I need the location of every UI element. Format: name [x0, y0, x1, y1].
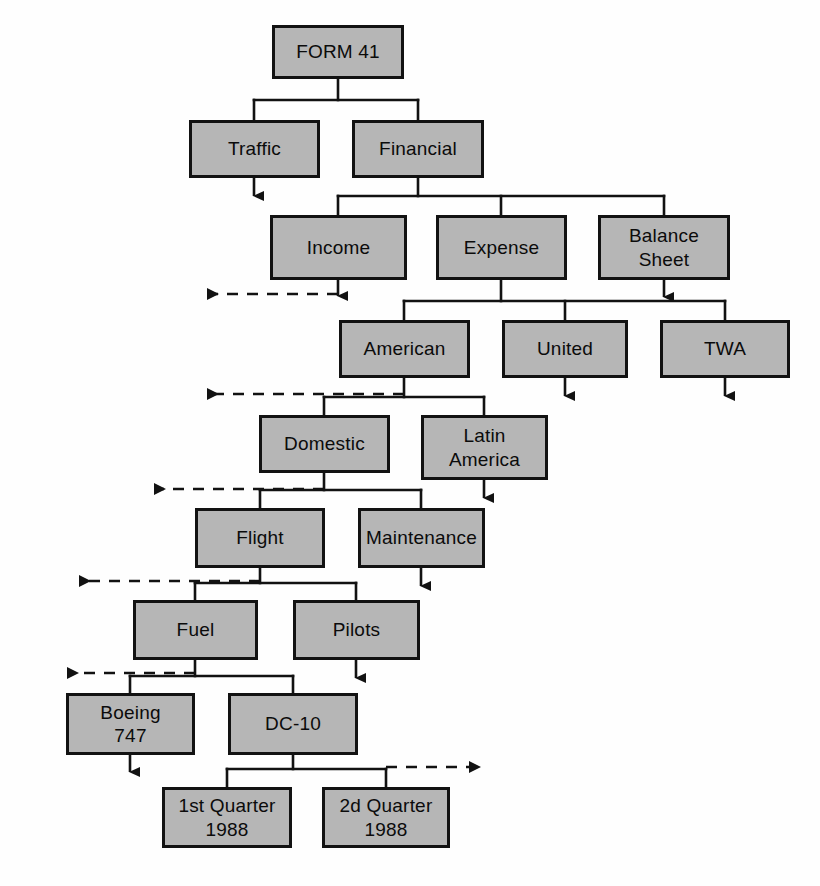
node-flight[interactable]: Flight [195, 508, 325, 568]
node-form-41[interactable]: FORM 41 [272, 25, 404, 79]
node-twa[interactable]: TWA [660, 320, 790, 378]
node-maintenance[interactable]: Maintenance [358, 508, 485, 568]
node-dc-10[interactable]: DC-10 [228, 693, 358, 755]
node-boeing-747[interactable]: Boeing 747 [66, 693, 195, 755]
node-balance-sheet[interactable]: Balance Sheet [598, 215, 730, 280]
node-pilots[interactable]: Pilots [293, 600, 420, 660]
node-2d-quarter-1988[interactable]: 2d Quarter 1988 [322, 787, 450, 848]
node-fuel[interactable]: Fuel [133, 600, 258, 660]
node-latin-america[interactable]: Latin America [421, 415, 548, 480]
form41-hierarchy-diagram: FORM 41 Traffic Financial Income Expense… [0, 0, 820, 886]
node-1st-quarter-1988[interactable]: 1st Quarter 1988 [162, 787, 292, 848]
node-domestic[interactable]: Domestic [259, 415, 390, 473]
node-expense[interactable]: Expense [436, 215, 567, 280]
node-income[interactable]: Income [270, 215, 407, 280]
node-united[interactable]: United [502, 320, 628, 378]
node-financial[interactable]: Financial [352, 120, 484, 178]
node-traffic[interactable]: Traffic [189, 120, 320, 178]
node-american[interactable]: American [339, 320, 470, 378]
